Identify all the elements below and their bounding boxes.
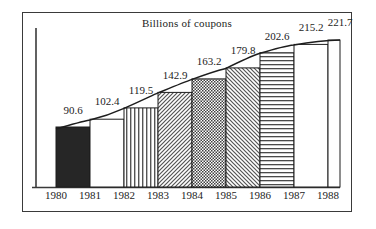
plot-area [22,12,352,212]
bar-1982 [124,108,158,187]
bar-1988 [328,40,340,187]
bar-group [56,40,340,187]
x-tick-1988: 1988 [317,189,339,201]
x-axis-tick-group: 1980 1981 1982 1983 1984 1985 1986 1987 … [22,189,352,209]
x-tick-1983: 1983 [147,189,169,201]
bar-1981 [90,119,124,187]
x-tick-1981: 1981 [79,189,101,201]
bar-1984 [192,79,226,187]
x-tick-1987: 1987 [283,189,305,201]
x-tick-1985: 1985 [215,189,237,201]
x-tick-1980: 1980 [45,189,67,201]
bar-1987 [294,44,328,187]
x-tick-1984: 1984 [181,189,203,201]
bar-1980 [56,127,90,187]
bar-1985 [226,68,260,187]
x-tick-1986: 1986 [249,189,271,201]
bar-1986 [260,53,294,187]
coupon-bar-chart: Billions of coupons [0,0,376,229]
bar-1983 [158,92,192,187]
x-tick-1982: 1982 [113,189,135,201]
